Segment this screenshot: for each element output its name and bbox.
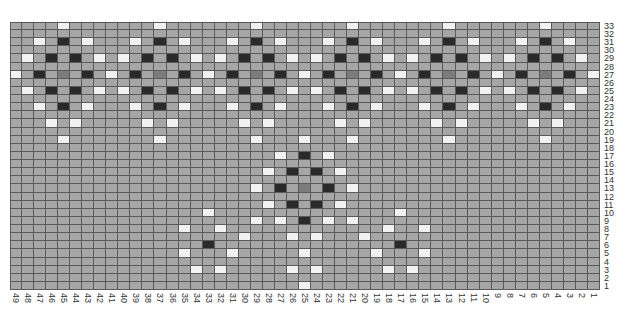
grid-cell (275, 87, 287, 95)
grid-cell (540, 87, 552, 95)
grid-cell (407, 168, 419, 176)
grid-cell (395, 233, 407, 241)
grid-cell (407, 63, 419, 71)
grid-cell (82, 54, 94, 62)
grid-cell (468, 95, 480, 103)
grid-cell (106, 193, 118, 201)
grid-cell (588, 176, 600, 184)
grid-cell (22, 79, 34, 87)
grid-cell (251, 46, 263, 54)
grid-cell (154, 63, 166, 71)
grid-cell (323, 87, 335, 95)
grid-cell (239, 201, 251, 209)
grid-cell (142, 111, 154, 119)
grid-cell (395, 258, 407, 266)
grid-cell (215, 193, 227, 201)
grid-cell (468, 152, 480, 160)
grid-cell (154, 176, 166, 184)
grid-cell (323, 184, 335, 192)
grid-cell (504, 144, 516, 152)
column-label: 9 (492, 293, 504, 309)
grid-cell (94, 201, 106, 209)
grid-cell (94, 63, 106, 71)
grid-cell (58, 30, 70, 38)
grid-cell (10, 168, 22, 176)
grid-cell (46, 128, 58, 136)
grid-cell (456, 103, 468, 111)
grid-cell (263, 22, 275, 30)
grid-cell (275, 274, 287, 282)
grid-cell (46, 54, 58, 62)
grid-cell (540, 63, 552, 71)
grid-cell (70, 152, 82, 160)
grid-cell (263, 160, 275, 168)
grid-cell (576, 63, 588, 71)
grid-cell (94, 209, 106, 217)
grid-cell (191, 184, 203, 192)
grid-cell (516, 193, 528, 201)
grid-cell (468, 38, 480, 46)
grid-cell (576, 241, 588, 249)
grid-cell (552, 258, 564, 266)
grid-cell (395, 119, 407, 127)
grid-cell (335, 128, 347, 136)
grid-cell (516, 282, 528, 290)
grid-cell (492, 176, 504, 184)
grid-cell (118, 160, 130, 168)
grid-cell (70, 119, 82, 127)
grid-cell (347, 176, 359, 184)
grid-cell (275, 152, 287, 160)
grid-cell (516, 274, 528, 282)
column-label: 18 (383, 293, 395, 309)
grid-cell (419, 95, 431, 103)
grid-cell (142, 201, 154, 209)
grid-cell (456, 266, 468, 274)
grid-cell (118, 103, 130, 111)
grid-cell (540, 46, 552, 54)
grid-cell (468, 241, 480, 249)
grid-cell (431, 111, 443, 119)
grid-cell (504, 71, 516, 79)
grid-cell (167, 168, 179, 176)
grid-cell (46, 266, 58, 274)
grid-cell (239, 249, 251, 257)
grid-cell (34, 22, 46, 30)
grid-cell (371, 79, 383, 87)
grid-cell (263, 225, 275, 233)
grid-cell (299, 193, 311, 201)
grid-cell (323, 282, 335, 290)
grid-cell (323, 258, 335, 266)
column-label: 13 (443, 293, 455, 309)
grid-cell (492, 46, 504, 54)
grid-cell (70, 209, 82, 217)
grid-cell (407, 46, 419, 54)
grid-cell (82, 241, 94, 249)
grid-cell (431, 266, 443, 274)
grid-cell (480, 258, 492, 266)
grid-cell (492, 111, 504, 119)
grid-cell (287, 225, 299, 233)
grid-cell (299, 22, 311, 30)
grid-cell (504, 217, 516, 225)
grid-cell (251, 71, 263, 79)
grid-cell (130, 160, 142, 168)
grid-cell (203, 176, 215, 184)
grid-cell (215, 30, 227, 38)
grid-cell (468, 22, 480, 30)
grid-cell (588, 249, 600, 257)
grid-cell (564, 111, 576, 119)
grid-cell (371, 249, 383, 257)
grid-cell (456, 38, 468, 46)
grid-cell (480, 249, 492, 257)
grid-cell (130, 225, 142, 233)
grid-cell (10, 54, 22, 62)
grid-cell (58, 144, 70, 152)
grid-cell (46, 119, 58, 127)
grid-cell (275, 217, 287, 225)
grid-cell (516, 176, 528, 184)
grid-cell (191, 136, 203, 144)
grid-cell (371, 176, 383, 184)
grid-cell (10, 233, 22, 241)
grid-cell (468, 209, 480, 217)
grid-cell (492, 95, 504, 103)
